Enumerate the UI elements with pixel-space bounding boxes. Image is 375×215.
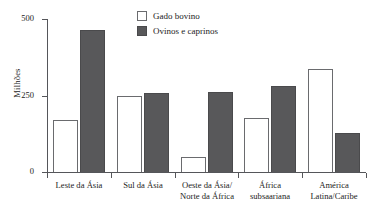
x-axis-category-label-4: AméricaLatina/Caribe (293, 180, 375, 201)
x-axis-separator (175, 173, 176, 178)
y-tick-250-label: 250 (21, 90, 34, 100)
y-tick-250-mark (42, 96, 48, 97)
y-axis-label: Milhões (12, 43, 22, 123)
legend-item-1: Ovinos e caprinos (137, 24, 218, 37)
bar-gado-bovino-1 (117, 96, 142, 172)
bar-ovinos-caprinos-4 (335, 133, 360, 172)
bar-ovinos-caprinos-2 (208, 92, 233, 172)
category-label-line: Latina/Caribe (293, 191, 375, 202)
bar-gado-bovino-4 (308, 69, 333, 172)
bar-ovinos-caprinos-1 (144, 93, 169, 172)
x-axis-separator (111, 173, 112, 178)
legend-item-label: Ovinos e caprinos (153, 26, 218, 36)
x-axis-separator (47, 173, 48, 178)
bar-chart-figure: Milhões 500 250 0 Leste da ÁsiaSul da Ás… (0, 0, 375, 215)
y-tick-500-mark (42, 19, 48, 20)
bar-gado-bovino-0 (53, 120, 78, 172)
bar-ovinos-caprinos-0 (80, 30, 105, 172)
x-axis-line (47, 172, 366, 173)
chart-legend: Gado bovinoOvinos e caprinos (137, 9, 218, 39)
x-axis-separator (302, 173, 303, 178)
legend-item-label: Gado bovino (153, 11, 200, 21)
white-square-swatch (137, 11, 147, 21)
legend-item-0: Gado bovino (137, 9, 218, 22)
x-axis-separator (366, 173, 367, 178)
dark-gray-square-swatch (137, 26, 147, 36)
x-axis-separator (238, 173, 239, 178)
y-tick-500-label: 500 (21, 13, 34, 23)
bar-gado-bovino-2 (181, 157, 206, 172)
y-tick-0-label: 0 (30, 166, 34, 176)
bar-gado-bovino-3 (244, 118, 269, 172)
bar-ovinos-caprinos-3 (271, 86, 296, 172)
category-label-line: América (293, 180, 375, 191)
